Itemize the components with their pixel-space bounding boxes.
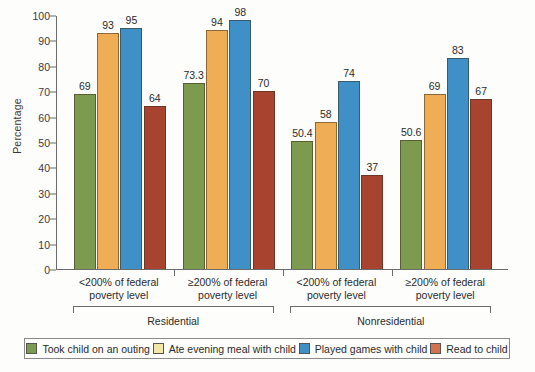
bar: 98 (229, 20, 251, 269)
supergroup-bracket (73, 306, 274, 313)
y-axis-tick-label: 20 (38, 213, 50, 225)
bar-value-label: 37 (367, 161, 379, 173)
bar-value-label: 58 (320, 108, 332, 120)
supergroup-bracket (290, 306, 491, 313)
bar-group: 50.4587437 (291, 16, 383, 269)
y-axis-ticks: 0102030405060708090100 (0, 0, 58, 372)
y-axis-tick-label: 60 (38, 112, 50, 124)
bar: 67 (470, 99, 492, 269)
legend-item[interactable]: Ate evening meal with child (153, 343, 296, 355)
bar: 69 (424, 94, 446, 269)
bar-value-label: 69 (79, 80, 91, 92)
bar-value-label: 69 (429, 80, 441, 92)
bar-value-label: 94 (211, 16, 223, 28)
bar: 64 (144, 106, 166, 269)
y-axis-tick-label: 40 (38, 162, 50, 174)
supergroup-label: Nonresidential (290, 315, 491, 327)
y-axis-tick-label: 90 (38, 35, 50, 47)
y-axis-tick-label: 50 (38, 137, 50, 149)
legend-swatch-icon (153, 343, 164, 354)
bar: 50.6 (400, 140, 422, 269)
bar: 94 (206, 30, 228, 269)
bar: 93 (97, 33, 119, 269)
y-axis-tick-label: 70 (38, 86, 50, 98)
bar: 50.4 (291, 141, 313, 269)
y-axis-tick-label: 100 (32, 10, 50, 22)
bar-value-label: 70 (258, 77, 270, 89)
legend-swatch-icon (299, 343, 310, 354)
legend-item-label: Played games with child (315, 343, 428, 355)
bar-value-label: 73.3 (183, 69, 203, 81)
x-axis-tick-label-line: ≥200% of federal (380, 276, 510, 289)
bar: 69 (74, 94, 96, 269)
plot-area: 6993956473.394987050.458743750.6698367 (56, 16, 508, 270)
legend-item-label: Read to child (446, 343, 507, 355)
bar-value-label: 64 (149, 92, 161, 104)
bar: 83 (447, 58, 469, 269)
bar-chart-figure: Percentage 0102030405060708090100 699395… (0, 0, 535, 372)
bar-value-label: 98 (234, 6, 246, 18)
legend-item[interactable]: Played games with child (299, 343, 428, 355)
legend-item-label: Took child on an outing (42, 343, 149, 355)
bar-value-label: 50.6 (401, 126, 421, 138)
bar-value-label: 83 (452, 44, 464, 56)
bar: 74 (338, 81, 360, 269)
x-axis-group-tick (392, 269, 393, 276)
bar-value-label: 74 (343, 67, 355, 79)
bar: 58 (315, 122, 337, 269)
bar-value-label: 95 (126, 14, 138, 26)
supergroup-label: Residential (73, 315, 274, 327)
legend-item[interactable]: Took child on an outing (26, 343, 149, 355)
bar: 95 (120, 28, 142, 269)
chart-legend: Took child on an outingAte evening meal … (24, 338, 510, 359)
bar-group: 50.6698367 (400, 16, 492, 269)
bar-value-label: 67 (475, 85, 487, 97)
bar: 37 (361, 175, 383, 269)
bar-group: 73.3949870 (183, 16, 275, 269)
bar-value-label: 93 (102, 19, 114, 31)
legend-item-label: Ate evening meal with child (169, 343, 296, 355)
bar-value-label: 50.4 (292, 127, 312, 139)
x-axis-tick-label-line: poverty level (380, 289, 510, 302)
legend-swatch-icon (430, 343, 441, 354)
legend-item[interactable]: Read to child (430, 343, 507, 355)
legend-swatch-icon (26, 343, 37, 354)
y-axis-tick-label: 10 (38, 239, 50, 251)
bar: 73.3 (183, 83, 205, 269)
bar-group: 69939564 (74, 16, 166, 269)
x-axis-tick-label: ≥200% of federalpoverty level (380, 276, 510, 301)
x-axis-group-tick (174, 269, 175, 276)
y-axis-tick-label: 30 (38, 188, 50, 200)
x-axis-group-tick (283, 269, 284, 276)
y-axis-tick-label: 80 (38, 61, 50, 73)
bar: 70 (253, 91, 275, 269)
